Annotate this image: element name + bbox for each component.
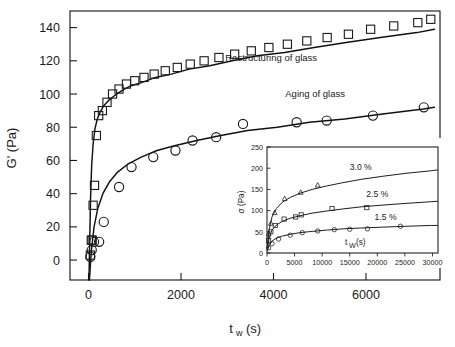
inset-x-axis-label-unit: (s) (356, 238, 366, 247)
main-x-tick-label: 2000 (167, 288, 195, 302)
annotation-2: Aging of glass (285, 88, 345, 99)
inset-annotation-3: 1.5 % (375, 212, 397, 222)
inset-y-tick-label: 50 (255, 228, 263, 237)
inset-plot: 050100150200250 050001000015000200002500… (232, 138, 447, 268)
inset-x-axis-label-subscript: W (349, 241, 356, 250)
main-y-tick-label: 60 (46, 154, 60, 168)
main-y-tick-label: 140 (39, 21, 60, 35)
y-axis-label: G' (Pa) (4, 128, 19, 169)
main-y-tick-label: 100 (39, 88, 60, 102)
inset-x-tick-label: 10000 (312, 258, 332, 267)
main-x-tick-label: 6000 (352, 288, 380, 302)
inset-x-tick-label: 15000 (340, 258, 360, 267)
inset-x-tick-label: 30000 (422, 258, 442, 267)
main-x-tick-label: 4000 (260, 288, 288, 302)
annotation-1: Restructuring of glass (225, 52, 317, 63)
x-axis-label-subscript: w (235, 328, 243, 338)
main-y-tick-label: 120 (39, 54, 60, 68)
inset-y-tick-label: 100 (251, 206, 263, 215)
figure-container: 020406080100120140 0200040006000 Restruc… (0, 0, 455, 347)
inset-y-tick-label: 150 (251, 185, 263, 194)
main-y-tick-label: 80 (46, 121, 60, 135)
inset-y-tick-label: 200 (251, 164, 263, 173)
inset-x-tick-label: 25000 (395, 258, 415, 267)
inset-annotation-2: 2.5 % (366, 189, 388, 199)
x-axis-label-base: t (229, 321, 233, 336)
inset-annotation-1: 3.0 % (350, 162, 372, 172)
inset-y-tick-label: 250 (251, 143, 263, 152)
main-y-tick-label: 0 (53, 254, 60, 268)
x-axis-label-unit: (s) (246, 321, 261, 336)
main-y-tick-label: 20 (46, 220, 60, 234)
inset-x-tick-label: 20000 (367, 258, 387, 267)
inset-x-tick-label: 0 (265, 258, 269, 267)
main-x-tick-label: 0 (85, 288, 92, 302)
inset-y-axis-label: σ (Pa) (237, 190, 246, 213)
inset-x-tick-label: 5000 (287, 258, 303, 267)
main-y-tick-label: 40 (46, 187, 60, 201)
inset-y-tick-label: 0 (259, 249, 263, 258)
scientific-figure: 020406080100120140 0200040006000 Restruc… (0, 0, 455, 347)
